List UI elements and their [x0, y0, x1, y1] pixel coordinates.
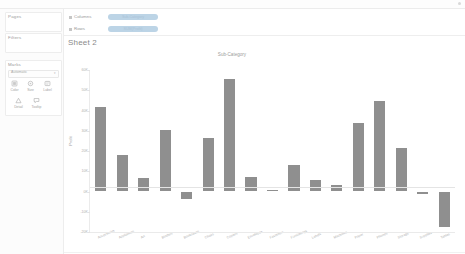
marks-tooltip-label: Tooltip — [30, 105, 43, 109]
tooltip-icon — [33, 97, 40, 104]
bar-mark[interactable] — [417, 192, 428, 194]
marks-detail-button[interactable]: Detail — [12, 97, 25, 110]
y-tick-mark — [88, 171, 91, 172]
plot-area: 60K50K40K30K20K10K0K-10K-20K Accessories… — [90, 70, 455, 232]
x-tick-label: Tables — [440, 232, 451, 240]
marks-color-button[interactable]: Color — [8, 80, 21, 93]
marks-tooltip-button[interactable]: Tooltip — [30, 97, 43, 110]
x-tick-label: Bookcases — [183, 229, 200, 239]
x-tick-label: Chairs — [204, 232, 215, 240]
rows-shelf-bullet-icon — [69, 28, 72, 31]
x-tick-label: Paper — [354, 232, 364, 239]
bar-mark[interactable] — [203, 138, 214, 192]
color-icon — [11, 80, 18, 87]
detail-icon — [15, 97, 22, 104]
window-bottom-divider — [64, 252, 465, 253]
columns-shelf-bullet-icon — [69, 16, 72, 19]
bar-mark[interactable] — [396, 148, 407, 191]
bar-mark[interactable] — [245, 177, 256, 191]
marks-type-value: Automatic — [11, 70, 27, 74]
x-tick-label: Accessories — [97, 229, 115, 240]
bar-mark[interactable] — [331, 185, 342, 192]
sidebar-divider — [63, 9, 64, 254]
shelf-divider — [64, 35, 465, 36]
bar-mark[interactable] — [224, 79, 235, 192]
worksheet-title: Sheet 2 — [68, 38, 97, 47]
zero-baseline — [90, 187, 455, 188]
marks-detail-label: Detail — [12, 105, 25, 109]
bar-mark[interactable] — [160, 130, 171, 191]
x-tick-label: Labels — [311, 232, 322, 240]
bar-mark[interactable] — [138, 178, 149, 191]
marks-label-label: Label — [41, 88, 54, 92]
window-control-dot[interactable] — [458, 2, 461, 5]
bar-mark[interactable] — [310, 180, 321, 191]
marks-size-button[interactable]: Size — [24, 80, 37, 93]
marks-color-label: Color — [8, 88, 21, 92]
rows-shelf-label: Rows — [74, 26, 85, 31]
pages-shelf-label: Pages — [8, 14, 21, 19]
x-tick-label: Furnishings — [290, 229, 308, 240]
bar-mark[interactable] — [95, 107, 106, 192]
marks-label-button[interactable]: Label — [41, 80, 54, 93]
chart-title: Sub-Category — [218, 52, 246, 57]
y-tick-mark — [88, 70, 91, 71]
y-tick-mark — [88, 192, 91, 193]
y-axis-title: Profit — [68, 136, 73, 145]
bar-mark[interactable] — [374, 101, 385, 191]
marks-size-label: Size — [24, 88, 37, 92]
size-icon — [27, 80, 34, 87]
marks-card-label: Marks — [8, 62, 21, 67]
y-tick-mark — [88, 151, 91, 152]
x-tick-label: Art — [140, 234, 146, 239]
y-tick-mark — [88, 111, 91, 112]
y-tick-mark — [88, 90, 91, 91]
columns-shelf-label: Columns — [74, 14, 91, 19]
bar-mark[interactable] — [117, 155, 128, 192]
chevron-down-icon[interactable]: ▾ — [54, 71, 56, 75]
bar-mark[interactable] — [267, 190, 278, 192]
pill-rows-sum-profit[interactable]: SUM(Profit) — [108, 26, 158, 33]
y-tick-mark — [88, 212, 91, 213]
filters-shelf-label: Filters — [8, 35, 21, 40]
bar-mark[interactable] — [353, 123, 364, 192]
bar-mark[interactable] — [439, 192, 450, 228]
x-axis-line — [90, 232, 455, 233]
label-icon — [44, 80, 51, 87]
x-tick-label: Appliances — [118, 229, 135, 239]
y-tick-mark — [88, 131, 91, 132]
pill-columns-sub-category[interactable]: Sub-Category — [108, 14, 158, 21]
bar-mark[interactable] — [181, 192, 192, 199]
